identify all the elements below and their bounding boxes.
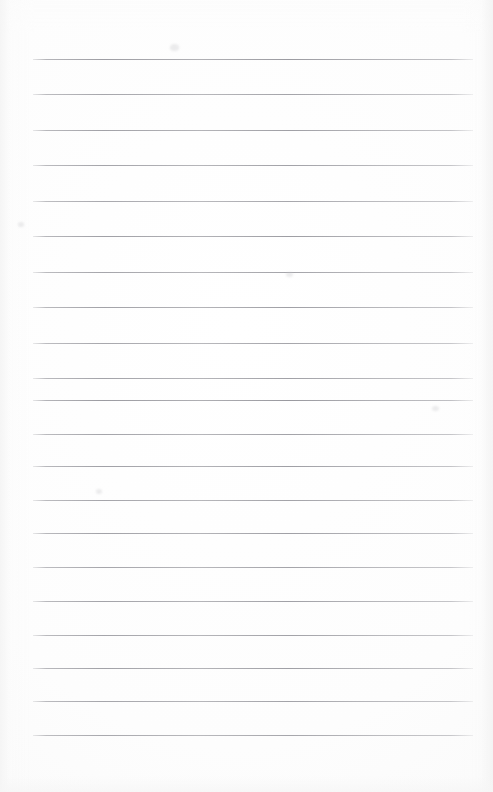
notepaper-page [0,0,493,792]
stray-scan-speck [18,222,24,227]
writing-area[interactable] [33,40,473,750]
